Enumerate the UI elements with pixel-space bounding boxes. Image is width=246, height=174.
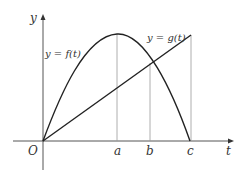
x-axis-arrow-icon bbox=[228, 139, 234, 144]
tick-label-a: a bbox=[114, 144, 121, 158]
g-curve-label: y = g(t) bbox=[146, 32, 186, 43]
y-axis bbox=[41, 14, 46, 170]
f-curve-label: y = f(t) bbox=[44, 48, 81, 59]
tick-label-c: c bbox=[187, 144, 194, 158]
y-axis-arrow-icon bbox=[41, 14, 46, 20]
function-graph: y t O y = f(t) y = g(t) a b c bbox=[0, 0, 246, 174]
y-axis-label: y bbox=[29, 11, 37, 25]
origin-label: O bbox=[28, 144, 38, 158]
tick-label-b: b bbox=[146, 144, 154, 158]
x-axis-label: t bbox=[226, 144, 231, 158]
